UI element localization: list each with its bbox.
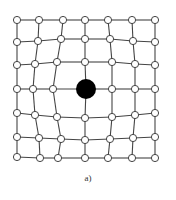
mesh-node — [57, 135, 64, 142]
mesh-node — [151, 85, 158, 92]
mesh-node — [131, 60, 138, 67]
mesh-node — [108, 85, 115, 92]
mesh-node — [34, 37, 41, 44]
mesh-node — [59, 16, 66, 23]
mesh-node — [129, 37, 136, 44]
mesh-node — [81, 154, 88, 161]
mesh-node — [108, 113, 115, 120]
mesh-node — [128, 16, 135, 23]
mesh-node — [151, 133, 158, 140]
mesh-node — [81, 16, 88, 23]
mesh-node — [151, 61, 158, 68]
mesh-node — [108, 58, 115, 65]
mesh-node — [151, 154, 158, 161]
mesh-node — [13, 38, 20, 45]
mesh-node — [54, 154, 61, 161]
mesh-node — [13, 133, 20, 140]
mesh-node — [81, 35, 88, 42]
mesh-node — [151, 109, 158, 116]
mesh-node — [128, 154, 135, 161]
mesh-node — [53, 113, 60, 120]
mesh-node — [81, 136, 88, 143]
mesh-node — [36, 154, 43, 161]
mesh-node — [57, 35, 64, 42]
mesh-edge — [57, 117, 85, 118]
mesh-node — [106, 135, 113, 142]
mesh-node — [104, 154, 111, 161]
mesh-node — [35, 16, 42, 23]
mesh-node — [31, 111, 38, 118]
mesh-node — [53, 58, 60, 65]
mesh-node — [151, 16, 158, 23]
mesh-node — [81, 114, 88, 121]
mesh-node — [31, 60, 38, 67]
mesh-node — [13, 153, 20, 160]
mesh-node — [104, 16, 111, 23]
mesh-node — [13, 85, 20, 92]
mesh-node — [81, 58, 88, 65]
mesh-diagram — [0, 0, 176, 200]
mesh-node — [129, 134, 136, 141]
mesh-node — [13, 109, 20, 116]
mesh-node — [49, 85, 56, 92]
mesh-node — [106, 35, 113, 42]
mesh-node — [13, 61, 20, 68]
mesh-edge — [53, 89, 57, 117]
mesh-node — [131, 111, 138, 118]
figure-caption: a) — [0, 173, 176, 183]
mesh-node — [29, 85, 36, 92]
mesh-node — [131, 85, 138, 92]
center-node — [76, 79, 96, 99]
mesh-node — [151, 38, 158, 45]
mesh-node — [13, 16, 20, 23]
mesh-node — [35, 134, 42, 141]
